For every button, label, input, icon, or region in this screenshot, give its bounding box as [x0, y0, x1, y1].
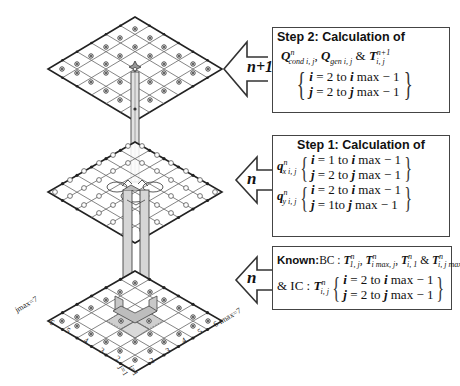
- grid-layer-middle: [48, 142, 222, 243]
- time-level-label-n-known: n: [247, 268, 256, 288]
- boundary-conditions: Known:BC : Tn1, j, Tni max, j, Tni, 1 & …: [277, 249, 447, 272]
- step1-box: Step 1: Calculation of qnx i, j { i = 1 …: [272, 135, 450, 237]
- step2-box: Step 2: Calculation of Qncond i, j, Qgen…: [272, 27, 450, 113]
- time-level-label-n-step1: n: [247, 169, 256, 189]
- grid-layer-bottom: [48, 271, 222, 372]
- step2-index-ranges: { i = 2 to i max − 1 j = 2 to j max − 1 …: [293, 69, 445, 99]
- step2-quantities: Qncond i, j, Qgen i, j & Tn+1i, j: [281, 45, 445, 69]
- step2-title: Step 2: Calculation of: [277, 30, 445, 44]
- known-conditions-box: Known:BC : Tn1, j, Tni max, j, Tni, 1 & …: [272, 246, 452, 310]
- time-level-label-n-plus-1: n+1: [247, 58, 273, 76]
- qy-flux-range: qny i, j { i = 2 to i max − 1 j = 1to j …: [277, 182, 445, 212]
- qx-flux-range: qnx i, j { i = 1 to i max − 1 j = 2 to j…: [277, 152, 445, 182]
- initial-conditions: & IC : Tni, j { i = 2 to i max − 1 j = 2…: [277, 272, 447, 302]
